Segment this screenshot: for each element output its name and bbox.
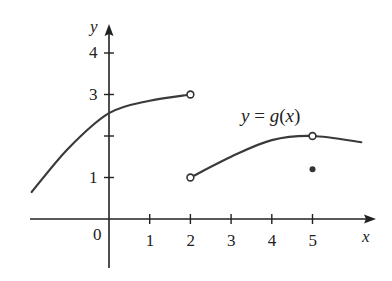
curves	[32, 95, 362, 193]
curve-right-branch	[190, 136, 361, 178]
filled-dot-icon	[310, 166, 316, 172]
function-graph	[0, 0, 392, 281]
x-tick-label: 1	[146, 232, 155, 249]
origin-label: 0	[93, 226, 102, 243]
x-tick-label: 3	[227, 232, 236, 249]
function-label-g: g	[270, 105, 280, 126]
y-axis-label: y	[90, 18, 98, 35]
y-tick-label: 3	[89, 86, 98, 103]
function-label: y = g(x)	[241, 106, 300, 125]
y-tick-label: 4	[89, 44, 98, 61]
function-label-close: )	[294, 105, 300, 126]
x-axis-label: x	[362, 228, 370, 245]
x-tick-label: 2	[186, 232, 195, 249]
open-circle-icon	[187, 174, 194, 181]
function-label-eq: =	[249, 105, 269, 126]
x-tick-label: 5	[309, 232, 318, 249]
open-circle-icon	[309, 133, 316, 140]
y-tick-label: 1	[89, 169, 98, 186]
x-tick-label: 4	[268, 232, 277, 249]
function-label-x: x	[285, 105, 293, 126]
open-circle-icon	[187, 91, 194, 98]
